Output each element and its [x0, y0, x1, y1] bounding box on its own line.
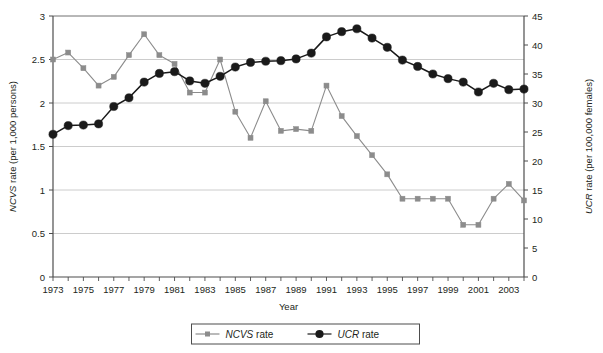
data-point[interactable]	[292, 55, 300, 63]
data-point[interactable]	[476, 222, 481, 227]
data-point[interactable]	[400, 196, 405, 201]
data-point[interactable]	[187, 90, 192, 95]
x-tick-label: 1975	[73, 284, 94, 295]
data-point[interactable]	[216, 72, 224, 80]
data-point[interactable]	[383, 43, 391, 51]
x-tick-label: 1987	[255, 284, 276, 295]
data-point[interactable]	[170, 68, 178, 76]
x-tick-label: 1991	[316, 284, 337, 295]
data-point[interactable]	[461, 222, 466, 227]
data-point[interactable]	[370, 153, 375, 158]
legend-marker-square	[205, 332, 210, 337]
x-axis-title: Year	[279, 301, 298, 312]
data-point[interactable]	[339, 114, 344, 119]
y-axis-left-title: NCVS rate (per 1,000 persons)	[7, 81, 18, 212]
data-point[interactable]	[354, 134, 359, 139]
data-point[interactable]	[49, 130, 57, 138]
data-point[interactable]	[338, 28, 346, 36]
data-point[interactable]	[157, 53, 162, 58]
y-tick-label-right: 40	[532, 40, 543, 51]
data-point[interactable]	[262, 57, 270, 65]
data-point[interactable]	[429, 70, 437, 78]
data-point[interactable]	[307, 49, 315, 57]
data-point[interactable]	[172, 61, 177, 66]
y-tick-label-right: 15	[532, 185, 543, 196]
x-axis-ticks: 1973197519771979198119831985198719891991…	[42, 277, 524, 295]
y-tick-label-right: 5	[532, 243, 537, 254]
data-point[interactable]	[278, 128, 283, 133]
data-point[interactable]	[414, 62, 422, 70]
data-point[interactable]	[218, 57, 223, 62]
data-point[interactable]	[51, 57, 56, 62]
data-point[interactable]	[233, 109, 238, 114]
data-point[interactable]	[446, 196, 451, 201]
data-point[interactable]	[491, 196, 496, 201]
data-point[interactable]	[415, 196, 420, 201]
y-tick-label-left: 2.5	[32, 54, 45, 65]
data-point[interactable]	[263, 99, 268, 104]
y-axis-right-ticks: 051015202530354045	[524, 11, 543, 283]
legend-item[interactable]: UCR rate	[308, 329, 380, 340]
data-point[interactable]	[294, 127, 299, 132]
data-point[interactable]	[231, 63, 239, 71]
data-point[interactable]	[96, 83, 101, 88]
x-tick-label: 1983	[194, 284, 215, 295]
data-point[interactable]	[430, 196, 435, 201]
y-axis-right-title: UCR rate (per 100,000 females)	[583, 79, 594, 214]
data-point[interactable]	[125, 94, 133, 102]
x-tick-label: 1981	[164, 284, 185, 295]
x-tick-label: 2003	[498, 284, 519, 295]
data-point[interactable]	[490, 79, 498, 87]
data-point[interactable]	[186, 77, 194, 85]
data-point[interactable]	[522, 198, 527, 203]
legend-label: NCVS rate	[226, 329, 274, 340]
x-tick-label: 1997	[407, 284, 428, 295]
data-point[interactable]	[140, 78, 148, 86]
y-tick-label-right: 0	[532, 272, 537, 283]
x-tick-label: 1973	[42, 284, 63, 295]
data-point[interactable]	[520, 85, 528, 93]
data-point[interactable]	[353, 25, 361, 33]
data-point[interactable]	[111, 74, 116, 79]
data-point[interactable]	[309, 128, 314, 133]
y-tick-label-left: 0	[40, 272, 45, 283]
x-tick-label: 1979	[134, 284, 155, 295]
data-point[interactable]	[142, 32, 147, 37]
chart-container: 00.511.522.53051015202530354045197319751…	[0, 0, 603, 353]
data-point[interactable]	[81, 66, 86, 71]
data-point[interactable]	[459, 78, 467, 86]
y-tick-label-right: 10	[532, 214, 543, 225]
line-chart: 00.511.522.53051015202530354045197319751…	[0, 0, 603, 353]
data-point[interactable]	[94, 120, 102, 128]
legend: NCVS rateUCR rate	[192, 324, 420, 344]
x-tick-label: 2001	[468, 284, 489, 295]
data-point[interactable]	[506, 181, 511, 186]
y-tick-label-left: 1	[40, 185, 45, 196]
data-point[interactable]	[474, 88, 482, 96]
data-point[interactable]	[126, 53, 131, 58]
y-tick-label-right: 20	[532, 156, 543, 167]
data-point[interactable]	[201, 79, 209, 87]
data-point[interactable]	[66, 50, 71, 55]
data-point[interactable]	[505, 86, 513, 94]
data-point[interactable]	[64, 122, 72, 130]
y-tick-label-left: 0.5	[32, 228, 45, 239]
data-point[interactable]	[324, 83, 329, 88]
data-point[interactable]	[398, 56, 406, 64]
data-point[interactable]	[248, 135, 253, 140]
data-point[interactable]	[277, 57, 285, 65]
x-tick-label: 1995	[377, 284, 398, 295]
data-point[interactable]	[79, 121, 87, 129]
y-tick-label-left: 1.5	[32, 141, 45, 152]
data-point[interactable]	[322, 33, 330, 41]
data-point[interactable]	[368, 34, 376, 42]
data-point[interactable]	[202, 90, 207, 95]
x-tick-label: 1999	[437, 284, 458, 295]
data-point[interactable]	[246, 58, 254, 66]
data-point[interactable]	[155, 69, 163, 77]
y-tick-label-left: 3	[40, 11, 45, 22]
data-point[interactable]	[385, 172, 390, 177]
data-point[interactable]	[110, 102, 118, 110]
legend-marker-circle	[315, 330, 323, 338]
data-point[interactable]	[444, 75, 452, 83]
